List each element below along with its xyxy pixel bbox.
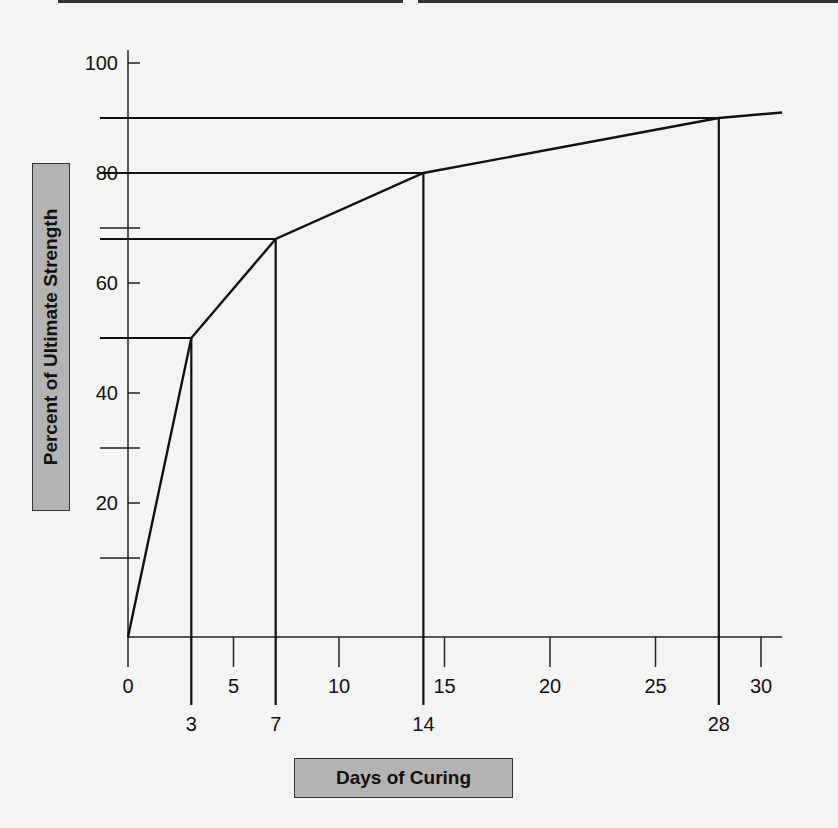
x-tick-label: 25	[644, 675, 666, 697]
x-marked-label: 14	[412, 713, 434, 735]
y-tick-label: 20	[96, 492, 118, 514]
x-marked-label: 3	[186, 713, 197, 735]
y-tick-label: 80	[96, 162, 118, 184]
strength-curing-chart: 20406080100 051015202530371428	[0, 0, 838, 828]
y-tick-labels: 20406080100	[85, 52, 118, 514]
x-axis-label: Days of Curing	[336, 767, 471, 789]
axes	[100, 50, 782, 667]
x-tick-label: 10	[328, 675, 350, 697]
y-axis-label-box: Percent of Ultimate Strength	[32, 163, 70, 511]
x-tick-label: 20	[539, 675, 561, 697]
x-marked-label: 7	[270, 713, 281, 735]
x-tick-labels: 051015202530371428	[122, 675, 772, 735]
x-tick-label: 30	[750, 675, 772, 697]
x-tick-label: 0	[122, 675, 133, 697]
x-marked-label: 28	[708, 713, 730, 735]
reference-guides	[100, 118, 719, 705]
y-tick-label: 60	[96, 272, 118, 294]
x-axis-label-box: Days of Curing	[294, 758, 513, 798]
x-tick-label: 15	[433, 675, 455, 697]
y-tick-label: 40	[96, 382, 118, 404]
x-tick-label: 5	[228, 675, 239, 697]
y-axis-label: Percent of Ultimate Strength	[40, 209, 62, 466]
y-tick-label: 100	[85, 52, 118, 74]
strength-curve	[128, 113, 782, 638]
